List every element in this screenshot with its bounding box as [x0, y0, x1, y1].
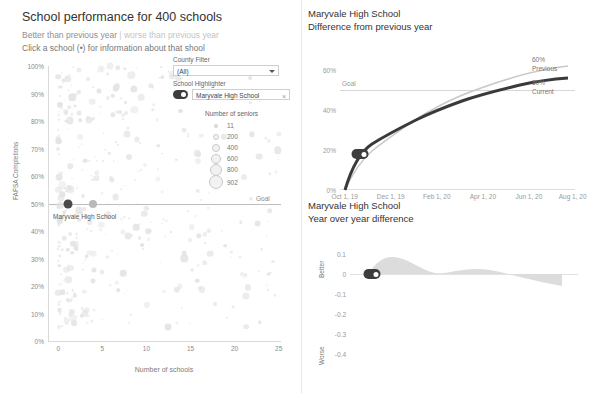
scatter-point[interactable] — [174, 287, 180, 293]
scatter-point[interactable] — [243, 324, 249, 330]
scatter-point[interactable] — [113, 160, 115, 162]
scatter-point[interactable] — [91, 320, 94, 323]
chevron-down-icon[interactable] — [269, 70, 275, 73]
scatter-point[interactable] — [207, 250, 214, 257]
scatter-point[interactable] — [59, 111, 61, 113]
scatter-point[interactable] — [136, 203, 138, 205]
scatter-point[interactable] — [76, 67, 81, 72]
scatter-point[interactable] — [117, 253, 119, 255]
county-filter-select[interactable]: (All) — [173, 65, 279, 76]
scatter-point[interactable] — [79, 146, 81, 148]
scatter-point[interactable] — [122, 118, 124, 120]
scatter-point[interactable] — [139, 142, 141, 144]
scatter-point[interactable] — [134, 137, 139, 142]
scatter-point[interactable] — [82, 262, 84, 264]
scatter-point[interactable] — [260, 248, 263, 251]
scatter-point[interactable] — [77, 134, 83, 140]
scatter-point[interactable] — [99, 113, 101, 115]
scatter-point[interactable] — [150, 221, 152, 223]
scatter-point-maryvale[interactable] — [64, 199, 73, 208]
scatter-point[interactable] — [60, 273, 62, 275]
scatter-point[interactable] — [121, 219, 123, 221]
scatter-point[interactable] — [271, 260, 275, 264]
scatter-point[interactable] — [124, 131, 131, 138]
scatter-point[interactable] — [96, 160, 98, 162]
scatter-point[interactable] — [58, 304, 60, 306]
scatter-point[interactable] — [142, 248, 144, 250]
scatter-point[interactable] — [83, 307, 90, 314]
scatter-point[interactable] — [160, 262, 162, 264]
scatter-point[interactable] — [258, 321, 261, 324]
scatter-point[interactable] — [79, 118, 83, 122]
scatter-point[interactable] — [195, 279, 200, 284]
scatter-point[interactable] — [239, 256, 242, 259]
scatter-point[interactable] — [152, 103, 155, 106]
scatter-point[interactable] — [273, 294, 275, 296]
scatter-point[interactable] — [56, 174, 63, 181]
scatter-point[interactable] — [187, 211, 189, 213]
scatter-point[interactable] — [73, 158, 75, 160]
scatter-point[interactable] — [89, 99, 96, 106]
scatter-point[interactable] — [130, 314, 132, 316]
scatter-point[interactable] — [68, 164, 74, 170]
scatter-point[interactable] — [81, 268, 84, 271]
scatter-point[interactable] — [181, 255, 188, 262]
scatter-point[interactable] — [131, 234, 133, 236]
scatter-point[interactable] — [85, 255, 88, 258]
scatter-point[interactable] — [130, 149, 132, 151]
scatter-point[interactable] — [244, 273, 248, 277]
scatter-point[interactable] — [239, 220, 243, 224]
scatter-point[interactable] — [143, 163, 147, 167]
scatter-point[interactable] — [121, 113, 125, 117]
scatter-point[interactable] — [198, 264, 200, 266]
scatter-point[interactable] — [119, 203, 122, 206]
scatter-point[interactable] — [191, 269, 194, 272]
scatter-point[interactable] — [81, 169, 83, 171]
scatter-point[interactable] — [115, 141, 117, 143]
scatter-point[interactable] — [203, 232, 207, 236]
scatter-point[interactable] — [122, 185, 124, 187]
scatter-point[interactable] — [168, 71, 170, 73]
scatter-point[interactable] — [135, 180, 137, 182]
scatter-point[interactable] — [92, 87, 94, 89]
scatter-point[interactable] — [182, 128, 187, 133]
scatter-point[interactable] — [58, 254, 61, 257]
scatter-point[interactable] — [254, 220, 261, 227]
scatter-point[interactable] — [114, 83, 120, 89]
school-highlighter[interactable]: School Highlighter Maryvale High School … — [173, 80, 290, 100]
scatter-point[interactable] — [64, 99, 66, 101]
scatter-point[interactable] — [161, 153, 163, 155]
scatter-point[interactable] — [58, 130, 60, 132]
scatter-point[interactable] — [213, 302, 217, 306]
scatter-point[interactable] — [60, 300, 62, 302]
scatter-point[interactable] — [63, 109, 68, 114]
scatter-point[interactable] — [199, 134, 203, 138]
scatter-point[interactable] — [122, 222, 124, 224]
rb-highlight-marker[interactable] — [364, 269, 381, 279]
scatter-point[interactable] — [110, 112, 115, 117]
scatter-point[interactable] — [189, 322, 191, 324]
scatter-point[interactable] — [138, 236, 142, 240]
scatter-point[interactable] — [164, 323, 171, 330]
scatter-point[interactable] — [97, 66, 104, 73]
scatter-point[interactable] — [77, 187, 79, 189]
scatter-point[interactable] — [189, 224, 195, 230]
scatter-point[interactable] — [175, 159, 178, 162]
scatter-point[interactable] — [57, 248, 59, 250]
scatter-point[interactable] — [58, 245, 61, 248]
scatter-point[interactable] — [58, 302, 60, 304]
scatter-point[interactable] — [156, 198, 158, 200]
scatter-point[interactable] — [71, 289, 74, 292]
scatter-point[interactable] — [267, 208, 273, 214]
scatter-point[interactable] — [187, 133, 189, 135]
scatter-point[interactable] — [205, 242, 207, 244]
scatter-point[interactable] — [101, 191, 104, 194]
scatter-point[interactable] — [200, 199, 202, 201]
scatter-point[interactable] — [230, 251, 232, 253]
scatter-point[interactable] — [144, 302, 150, 308]
scatter-point[interactable] — [194, 215, 196, 217]
scatter-point[interactable] — [258, 271, 260, 273]
scatter-point[interactable] — [223, 244, 227, 248]
scatter-point[interactable] — [120, 97, 122, 99]
scatter-point[interactable] — [124, 111, 128, 115]
